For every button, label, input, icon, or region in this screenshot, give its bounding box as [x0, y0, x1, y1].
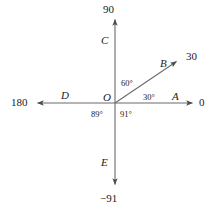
angle-label-30: 30° [143, 93, 155, 102]
angle-label-91: 91° [120, 110, 132, 119]
value-label-0: 0 [199, 97, 205, 108]
ray-label-d: D [61, 90, 69, 101]
angle-label-60: 60° [121, 79, 133, 88]
axes-svg [0, 0, 214, 212]
value-label-180: 180 [11, 97, 28, 108]
angle-label-89: 89° [91, 110, 103, 119]
ray-label-a: A [172, 91, 179, 102]
ray-label-b: B [160, 58, 167, 69]
origin-label-o: O [103, 92, 111, 103]
value-label-30: 30 [186, 51, 197, 62]
ray-label-e: E [101, 157, 108, 168]
angle-diagram: 90 30 0 180 −91 C B A D E O 60° 30° 89° … [0, 0, 214, 212]
ray-label-c: C [101, 35, 108, 46]
value-label-90: 90 [103, 4, 114, 15]
value-label-minus-91: −91 [100, 193, 117, 204]
